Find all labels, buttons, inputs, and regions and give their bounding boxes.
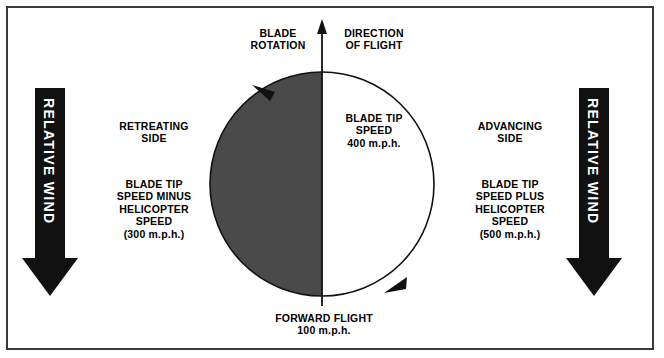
advancing-side-speed-label: BLADE TIP SPEED PLUS HELICOPTER SPEED (5… — [450, 178, 570, 240]
blade-rotation-arrowhead-bottom — [384, 277, 407, 293]
retreating-side-label: RETREATING SIDE — [96, 120, 212, 145]
diagram-page: RELATIVE WIND RELATIVE WIND BLADE ROTATI… — [0, 0, 664, 358]
advancing-side-label: ADVANCING SIDE — [452, 120, 568, 145]
forward-flight-label: FORWARD FLIGHT 100 m.p.h. — [258, 312, 390, 337]
relative-wind-label-left: RELATIVE WIND — [41, 98, 57, 224]
retreating-half-shading — [210, 72, 322, 296]
relative-wind-label-right: RELATIVE WIND — [585, 98, 601, 224]
direction-of-flight-label: DIRECTION OF FLIGHT — [326, 27, 422, 52]
advancing-half-shading — [322, 72, 434, 296]
relative-wind-arrow-right-head — [566, 258, 622, 296]
blade-tip-speed-label: BLADE TIP SPEED 400 m.p.h. — [326, 112, 422, 149]
relative-wind-arrow-left-head — [22, 258, 78, 296]
blade-rotation-label: BLADE ROTATION — [236, 27, 320, 52]
retreating-side-speed-label: BLADE TIP SPEED MINUS HELICOPTER SPEED (… — [94, 178, 214, 240]
